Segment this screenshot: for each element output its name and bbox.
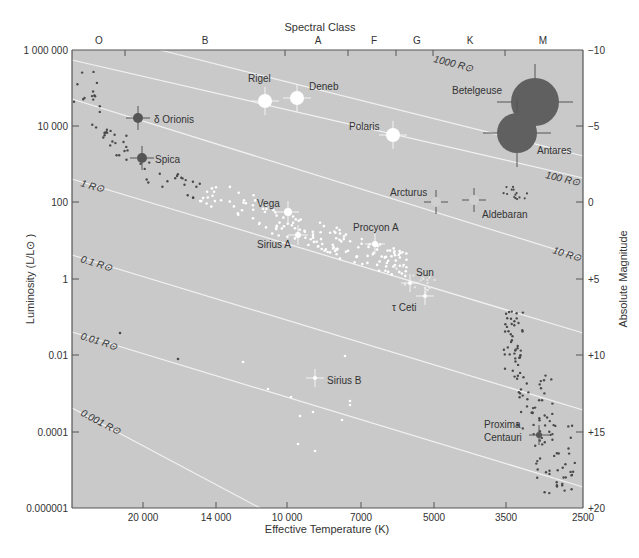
star-dot (353, 261, 356, 264)
star-dot (504, 330, 506, 332)
star-label: Betelgeuse (452, 85, 502, 96)
star-dot (551, 413, 553, 415)
star-dot (147, 181, 149, 183)
y-tick-label: 10 000 (37, 121, 68, 132)
white-dwarf-dot (341, 419, 344, 422)
star-dot (99, 105, 101, 107)
star-dot (412, 274, 414, 276)
star-dot (572, 471, 574, 473)
y2-tick-label: +5 (588, 274, 600, 285)
star-dot (427, 282, 429, 284)
star-label: Vega (257, 198, 280, 209)
star-dot (520, 349, 522, 351)
star-dot (543, 379, 545, 381)
star-dot (252, 209, 255, 212)
white-dwarf-dot (297, 443, 300, 446)
star-dot (345, 250, 348, 253)
star-dot (539, 383, 541, 385)
y2-tick-label: +10 (588, 350, 605, 361)
star-dot (119, 332, 122, 335)
star-dot (126, 149, 128, 151)
star-label: Deneb (309, 81, 339, 92)
star-dot (361, 238, 364, 241)
star-dot (192, 197, 194, 199)
star-dot (313, 241, 316, 244)
star-dot (511, 310, 513, 312)
star-dot (294, 237, 297, 240)
star-dot (548, 492, 550, 494)
star-dot (568, 452, 570, 454)
star-dot (538, 399, 540, 401)
star-dot (96, 82, 98, 84)
star-marker (258, 94, 272, 108)
star-dot (398, 271, 401, 274)
star-dot (519, 372, 521, 374)
spectral-class-label: O (95, 35, 103, 46)
star-dot (517, 364, 519, 366)
star-dot (334, 250, 337, 253)
star-dot (118, 154, 120, 156)
star-dot (517, 375, 519, 377)
star-dot (233, 205, 236, 208)
white-dwarf-dot (349, 400, 352, 403)
star-dot (125, 159, 127, 161)
star-dot (526, 192, 528, 194)
star-dot (343, 238, 346, 241)
star-dot (185, 179, 187, 181)
star-dot (516, 378, 518, 380)
star-dot (505, 313, 507, 315)
star-label: Sirius B (327, 375, 362, 386)
star-dot (517, 345, 519, 347)
star-dot (390, 273, 393, 276)
star-dot (520, 411, 522, 413)
star-dot (539, 457, 541, 459)
star-dot (360, 242, 363, 245)
star-label: Aldebaran (482, 209, 528, 220)
star-dot (206, 190, 209, 193)
star-dot (210, 205, 213, 208)
star-dot (345, 233, 348, 236)
star-dot (519, 355, 521, 357)
x-tick-label: 10 000 (272, 512, 303, 523)
star-dot (506, 326, 508, 328)
star-dot (265, 226, 268, 229)
star-dot (335, 237, 338, 240)
star-dot (339, 257, 342, 260)
star-dot (272, 209, 275, 212)
white-dwarf-dot (314, 450, 317, 453)
star-dot (73, 101, 75, 103)
star-dot (532, 407, 534, 409)
star-dot (220, 199, 223, 202)
star-marker (313, 376, 317, 380)
star-dot (504, 368, 506, 370)
star-dot (390, 255, 393, 258)
star-dot (404, 275, 407, 278)
star-dot (83, 97, 85, 99)
star-dot (357, 246, 360, 249)
star-dot (292, 215, 295, 218)
x-tick-label: 5000 (423, 512, 446, 523)
star-dot (378, 260, 381, 263)
star-dot (299, 218, 302, 221)
x-tick-label: 20 000 (128, 512, 159, 523)
star-dot (513, 196, 515, 198)
star-dot (405, 258, 408, 261)
star-marker (137, 153, 147, 163)
star-dot (159, 173, 161, 175)
star-dot (510, 333, 512, 335)
star-marker (133, 113, 143, 123)
star-dot (92, 90, 94, 92)
star-dot (426, 289, 428, 291)
star-dot (99, 111, 101, 113)
star-label: Polaris (349, 121, 380, 132)
star-dot (91, 95, 93, 97)
star-dot (183, 184, 185, 186)
star-dot (283, 225, 286, 228)
star-dot (392, 265, 395, 268)
star-dot (506, 317, 508, 319)
star-marker (469, 195, 479, 205)
star-dot (513, 375, 515, 377)
star-dot (510, 318, 512, 320)
star-dot (522, 394, 524, 396)
star-dot (307, 244, 310, 247)
